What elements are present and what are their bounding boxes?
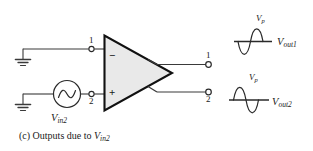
input-terminal-2-number: 2 <box>89 97 94 106</box>
source-label: Vin2 <box>51 113 67 125</box>
output-terminal-1-number: 1 <box>206 51 211 60</box>
waveform-vout2 <box>0 0 313 151</box>
input-terminal-1-number: 1 <box>89 36 94 45</box>
output-terminal-2-number: 2 <box>206 95 211 104</box>
output-1-label-sub: out1 <box>283 40 296 49</box>
figure-canvas: − + 1 2 1 2 Vin2 Vout1 Vout2 Vp Vp (c) O… <box>0 0 313 151</box>
figure-caption: (c) Outputs due to Vin2 <box>19 131 110 143</box>
output-1-label: Vout1 <box>277 37 297 49</box>
waveform-vout2-peak-sub: p <box>255 76 258 83</box>
output-2-label: Vout2 <box>272 97 292 109</box>
waveform-vout1-peak-label: Vp <box>256 14 265 25</box>
figure-caption-prefix: (c) <box>19 130 30 141</box>
figure-caption-text: Outputs due to <box>33 130 92 141</box>
opamp-inverting-input-sign: − <box>109 50 115 61</box>
figure-caption-var-sub: in2 <box>100 134 110 143</box>
opamp-noninverting-input-sign: + <box>109 87 115 98</box>
waveform-vout1-peak-sub: p <box>262 17 265 24</box>
output-2-label-sub: out2 <box>278 100 291 109</box>
source-label-sub: in2 <box>57 116 67 125</box>
waveform-vout2-peak-label: Vp <box>249 73 258 84</box>
